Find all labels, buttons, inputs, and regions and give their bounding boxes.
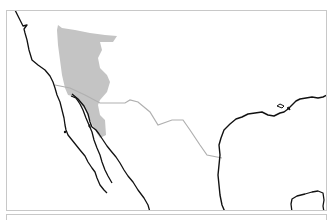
range-map (0, 0, 334, 220)
yucatan-coastline (291, 191, 324, 212)
lower-frame (6, 214, 327, 220)
gulf-of-mexico-coastline (218, 95, 327, 212)
delta-islands (277, 104, 290, 110)
island (64, 131, 66, 133)
